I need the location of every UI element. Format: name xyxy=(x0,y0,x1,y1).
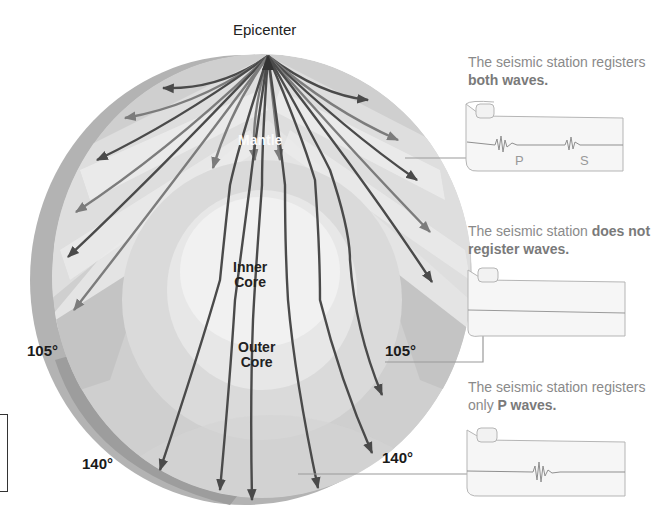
s-wave-label: S xyxy=(580,153,589,168)
seismogram-p-waves-only xyxy=(467,428,625,496)
outer-core-label: Outer Core xyxy=(238,340,275,370)
seismogram-both-waves xyxy=(466,101,623,171)
angle-105-right: 105° xyxy=(385,342,416,359)
caption-text: The seismic station registers xyxy=(468,54,645,70)
caption-text: The seismic station registers only xyxy=(468,379,645,413)
outer-core-label-line2: Core xyxy=(238,355,275,370)
inner-core-label-line1: Inner xyxy=(233,260,267,275)
angle-140-right: 140° xyxy=(382,449,413,466)
mantle-label: Mantle xyxy=(238,132,282,148)
p-wave-label: P xyxy=(515,153,524,168)
partial-frame-box xyxy=(0,414,8,492)
epicenter-label: Epicenter xyxy=(233,21,296,38)
station-caption-both: The seismic station registers both waves… xyxy=(468,53,660,89)
outer-core-label-line1: Outer xyxy=(238,340,275,355)
caption-bold: both waves. xyxy=(468,72,548,88)
angle-140-left: 140° xyxy=(82,455,113,472)
seismogram-no-waves xyxy=(468,268,625,336)
angle-105-left: 105° xyxy=(27,342,58,359)
seismic-wave-diagram: Epicenter Mantle Inner Core Outer Core 1… xyxy=(0,0,660,525)
station-caption-p-only: The seismic station registers only P wav… xyxy=(468,378,660,414)
inner-core-label-line2: Core xyxy=(233,275,267,290)
inner-core-label: Inner Core xyxy=(233,260,267,290)
station-caption-none: The seismic station does not register wa… xyxy=(468,222,660,258)
caption-text: The seismic station xyxy=(468,223,592,239)
caption-bold: P waves. xyxy=(498,397,557,413)
